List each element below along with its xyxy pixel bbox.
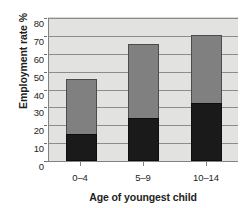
y-tick-label: 10 xyxy=(18,144,44,154)
x-tick-label: 0–4 xyxy=(50,172,110,183)
x-tick-mark xyxy=(206,162,207,166)
x-tick-mark xyxy=(80,162,81,166)
x-axis-title: Age of youngest child xyxy=(48,191,238,203)
plot-area xyxy=(48,18,238,161)
x-tick-label: 10–14 xyxy=(176,172,236,183)
x-tick-label: 5–9 xyxy=(113,172,173,183)
y-tick-label: 50 xyxy=(18,73,44,83)
y-axis-tick-labels: 01020304050607080 xyxy=(18,12,44,164)
bar-1 xyxy=(66,79,97,161)
bar-segment-lower xyxy=(66,134,97,161)
y-tick-mark xyxy=(44,161,47,162)
gridline xyxy=(49,18,238,19)
y-tick-mark xyxy=(44,54,47,55)
y-tick-label: 20 xyxy=(18,126,44,136)
y-tick-mark xyxy=(44,143,47,144)
y-tick-label: 60 xyxy=(18,55,44,65)
y-tick-mark xyxy=(44,90,47,91)
bar-segment-lower xyxy=(191,103,222,161)
bar-2 xyxy=(128,44,159,161)
x-tick-mark xyxy=(143,162,144,166)
y-tick-label: 40 xyxy=(18,91,44,101)
bar-segment-lower xyxy=(128,118,159,161)
y-tick-mark xyxy=(44,18,47,19)
x-axis-line xyxy=(46,161,238,162)
bar-3 xyxy=(191,35,222,161)
y-tick-label: 70 xyxy=(18,37,44,47)
y-tick-mark xyxy=(44,125,47,126)
y-tick-label: 80 xyxy=(18,19,44,29)
y-tick-label: 0 xyxy=(18,162,44,172)
y-tick-label: 30 xyxy=(18,108,44,118)
y-tick-mark xyxy=(44,107,47,108)
employment-rate-bar-chart: Employment rate % 01020304050607080 Age … xyxy=(0,0,251,208)
y-tick-mark xyxy=(44,72,47,73)
y-tick-mark xyxy=(44,36,47,37)
